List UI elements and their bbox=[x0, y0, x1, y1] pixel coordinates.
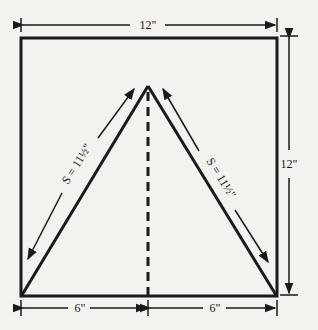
triangle-left-side bbox=[22, 86, 148, 295]
right-slant-dimension: S = 11½" bbox=[163, 89, 268, 262]
left-slant-label: S = 11½" bbox=[59, 141, 95, 187]
right-dimension: 12" bbox=[280, 36, 298, 295]
right-height-label: 12" bbox=[281, 157, 298, 171]
top-width-label: 12" bbox=[140, 18, 157, 32]
bottom-right-label: 6" bbox=[210, 301, 221, 315]
bottom-left-label: 6" bbox=[75, 301, 86, 315]
bottom-dimension: 6" 6" bbox=[21, 300, 277, 316]
triangle-right-side bbox=[148, 86, 276, 295]
left-slant-dimension: S = 11½" bbox=[28, 89, 134, 259]
pattern-diagram: 12" 12" 6" 6" S = 11½" S = 11½" bbox=[0, 0, 318, 330]
top-dimension: 12" bbox=[21, 18, 277, 32]
right-slant-label: S = 11½" bbox=[204, 155, 240, 201]
